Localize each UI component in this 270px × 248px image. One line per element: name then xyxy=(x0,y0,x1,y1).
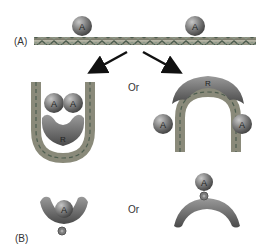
gene-regulation-diagram: A A R A A R A A xyxy=(0,0,270,248)
svg-text:A: A xyxy=(61,205,67,215)
activator-ball-arch-right: A xyxy=(232,114,252,134)
activator-ball-arch-b: A xyxy=(195,173,213,191)
dna-loop-arch xyxy=(180,92,236,152)
activator-ball-left: A xyxy=(72,16,92,36)
svg-text:A: A xyxy=(51,99,57,109)
bead-icon-arch xyxy=(200,192,208,200)
repressor-arch-b xyxy=(174,198,240,228)
svg-text:A: A xyxy=(79,22,85,32)
svg-text:A: A xyxy=(70,99,76,109)
bead-icon-cup xyxy=(58,227,66,235)
svg-text:A: A xyxy=(239,120,245,130)
svg-text:A: A xyxy=(192,22,198,32)
dna-strand-straight xyxy=(34,37,256,45)
svg-text:R: R xyxy=(205,79,211,88)
activator-ball-cup: A xyxy=(55,200,73,218)
arrow-left xyxy=(96,52,127,69)
repressor-u-loop: R xyxy=(42,115,84,146)
activator-ball-loop-right: A xyxy=(63,93,83,113)
activator-ball-arch-left: A xyxy=(153,114,173,134)
svg-text:A: A xyxy=(201,178,207,188)
activator-ball-right: A xyxy=(185,16,205,36)
activator-ball-loop-left: A xyxy=(44,93,64,113)
arrow-right xyxy=(143,52,174,69)
svg-text:R: R xyxy=(60,135,66,144)
svg-text:A: A xyxy=(160,120,166,130)
